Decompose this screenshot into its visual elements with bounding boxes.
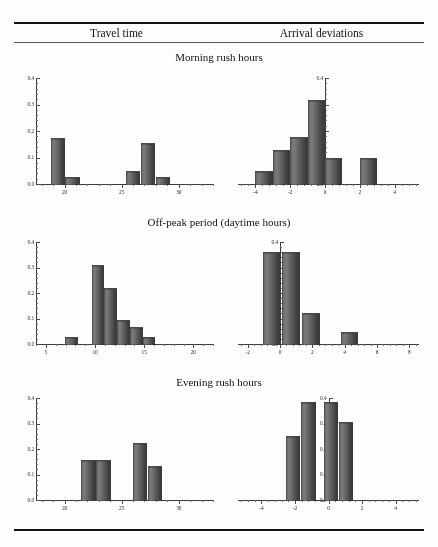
x-tick-label: 15 <box>132 349 156 356</box>
histogram-bar <box>92 265 105 345</box>
histogram-bar <box>263 252 281 345</box>
y-tick-minor <box>36 288 38 289</box>
table-header-rule <box>14 42 424 43</box>
x-tick-label: 30 <box>167 189 191 196</box>
x-tick-label: 5 <box>34 349 58 356</box>
y-tick-minor <box>36 168 38 169</box>
histogram-bar <box>273 150 290 185</box>
y-tick-minor <box>325 147 327 148</box>
x-tick-label: 10 <box>83 349 107 356</box>
y-tick-minor <box>36 495 38 496</box>
histogram-bar <box>133 443 147 501</box>
y-tick-minor <box>325 110 327 111</box>
x-tick-minor <box>388 184 389 186</box>
x-tick-label: 20 <box>53 505 77 512</box>
x-tick-minor <box>402 500 403 502</box>
x-tick-minor <box>364 344 365 346</box>
x-tick-label: -2 <box>236 349 260 356</box>
y-tick-minor <box>36 480 38 481</box>
y-tick-minor <box>36 115 38 116</box>
y-tick-minor <box>36 257 38 258</box>
x-tick-label: -4 <box>243 189 267 196</box>
y-tick-minor <box>325 99 327 100</box>
y-tick-major <box>36 78 40 79</box>
y-tick-label: 0.4 <box>305 75 323 82</box>
y-tick-major <box>36 268 40 269</box>
histogram-bar <box>126 171 140 185</box>
y-tick-minor <box>36 313 38 314</box>
x-tick-minor <box>241 344 242 346</box>
histogram-bar <box>325 158 342 186</box>
y-tick-minor <box>36 120 38 121</box>
x-tick-label: 2 <box>300 349 324 356</box>
x-tick-minor <box>174 344 175 346</box>
x-tick-minor <box>42 500 43 502</box>
y-tick-minor <box>36 278 38 279</box>
x-tick-minor <box>409 184 410 186</box>
chart-offpeak-arrival-deviations: -2024680.00.10.20.30.4 <box>224 236 429 358</box>
histogram-bar <box>104 288 117 345</box>
y-tick-minor <box>36 464 38 465</box>
y-tick-minor <box>36 283 38 284</box>
y-tick-minor <box>325 126 327 127</box>
y-tick-minor <box>36 413 38 414</box>
y-tick-minor <box>36 490 38 491</box>
x-tick-minor <box>390 344 391 346</box>
x-tick-minor <box>383 344 384 346</box>
x-tick-major <box>261 500 262 504</box>
x-tick-label: 8 <box>397 349 421 356</box>
x-tick-minor <box>371 344 372 346</box>
y-tick-minor <box>36 83 38 84</box>
x-tick-label: -4 <box>249 505 273 512</box>
plot-area: -2024680.00.10.20.30.4 <box>224 236 429 358</box>
y-tick-minor <box>36 262 38 263</box>
y-tick-minor <box>36 485 38 486</box>
x-tick-minor <box>56 344 57 346</box>
plot-area: -4-20240.00.10.20.30.4 <box>224 392 429 516</box>
y-tick-major <box>36 398 40 399</box>
histogram-bar <box>143 337 156 345</box>
y-tick-major <box>36 158 40 159</box>
x-tick-minor <box>382 500 383 502</box>
x-tick-minor <box>416 344 417 346</box>
x-tick-label: 25 <box>110 505 134 512</box>
histogram-bar <box>324 402 338 501</box>
y-tick-major <box>280 242 284 243</box>
y-tick-major <box>36 319 40 320</box>
histogram-bar <box>141 143 155 185</box>
y-tick-major <box>36 184 40 185</box>
x-tick-label: 0 <box>268 349 292 356</box>
x-tick-label: 20 <box>181 349 205 356</box>
x-tick-minor <box>325 344 326 346</box>
x-tick-major <box>193 344 194 348</box>
y-tick-minor <box>36 454 38 455</box>
y-tick-label: 0.1 <box>16 154 34 161</box>
chart-offpeak-travel-time: 51015200.00.10.20.30.4 <box>14 236 219 358</box>
y-tick-major <box>325 105 329 106</box>
histogram-bar <box>308 100 325 185</box>
x-tick-minor <box>353 184 354 186</box>
x-tick-minor <box>87 184 88 186</box>
figure-page: Travel time Arrival deviations Morning r… <box>0 0 438 547</box>
histogram-bar <box>286 436 300 501</box>
x-axis-line <box>36 500 213 501</box>
y-tick-minor <box>36 163 38 164</box>
y-tick-minor <box>325 152 327 153</box>
y-tick-minor <box>36 94 38 95</box>
y-tick-minor <box>325 94 327 95</box>
plot-area: -4-20240.00.10.20.30.4 <box>224 72 429 200</box>
x-tick-major <box>65 500 66 504</box>
column-header-travel-time: Travel time <box>14 25 219 41</box>
histogram-bar <box>81 460 95 501</box>
y-tick-minor <box>325 120 327 121</box>
y-tick-minor <box>36 408 38 409</box>
histogram-bar <box>255 171 272 185</box>
x-tick-minor <box>110 184 111 186</box>
y-tick-minor <box>36 444 38 445</box>
x-tick-label: 0 <box>317 505 341 512</box>
x-tick-minor <box>167 500 168 502</box>
panel-title-morning: Morning rush hours <box>0 51 438 63</box>
table-bottom-rule <box>14 529 424 531</box>
y-tick-minor <box>36 418 38 419</box>
x-tick-minor <box>42 184 43 186</box>
